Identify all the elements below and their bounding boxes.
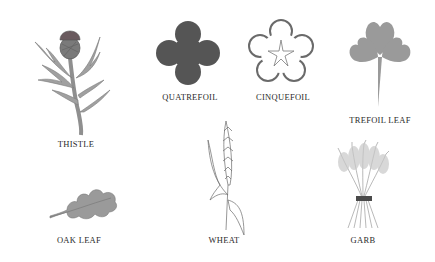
cinquefoil-icon	[248, 18, 318, 88]
garb-icon	[330, 140, 400, 230]
quatrefoil-label: QUATREFOIL	[162, 92, 217, 102]
cinquefoil-label: CINQUEFOIL	[256, 92, 310, 102]
thistle-icon	[0, 0, 150, 150]
trefoil-leaf-label: TREFOIL LEAF	[349, 115, 411, 125]
wheat-label: WHEAT	[208, 235, 239, 245]
garb-label: GARB	[351, 235, 376, 245]
oak-leaf-label: OAK LEAF	[57, 235, 101, 245]
thistle-label: THISTLE	[58, 139, 95, 149]
oak-leaf-icon	[45, 180, 125, 230]
quatrefoil-icon	[155, 20, 225, 90]
trefoil-leaf-icon	[340, 15, 420, 115]
wheat-icon	[200, 115, 260, 245]
